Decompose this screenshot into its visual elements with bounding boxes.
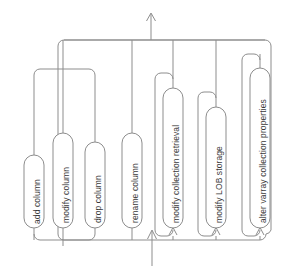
bottom-rail-right-corner bbox=[260, 234, 266, 240]
node-alter-varray-collection-properties[interactable]: alter varray collection properties bbox=[250, 68, 270, 228]
node-modify-lob-storage[interactable]: modify LOB storage bbox=[206, 107, 226, 228]
node-add-column[interactable]: add column bbox=[24, 155, 44, 228]
node-add-column-label: add column bbox=[32, 179, 42, 224]
node-modify-lob-storage-label: modify LOB storage bbox=[214, 146, 224, 223]
main-bottom-rail-group bbox=[58, 234, 266, 240]
syntax-diagram-svg: add column modify column drop column ren… bbox=[0, 0, 293, 272]
node-entry-arrowheads bbox=[169, 228, 264, 236]
node-drop-column-label: drop column bbox=[93, 175, 103, 223]
left-inner-bracket-bottom bbox=[34, 234, 95, 240]
node-modify-column[interactable]: modify column bbox=[53, 133, 73, 228]
node-alter-varray-collection-properties-label: alter varray collection properties bbox=[258, 99, 268, 223]
node-modify-column-label: modify column bbox=[61, 167, 71, 223]
railroad-diagram-canvas: add column modify column drop column ren… bbox=[0, 0, 293, 272]
node-drop-column[interactable]: drop column bbox=[85, 142, 105, 228]
node-modify-collection-retrieval[interactable]: modify collection retrieval bbox=[163, 88, 183, 228]
node-modify-collection-retrieval-label: modify collection retrieval bbox=[171, 125, 181, 223]
left-inner-bracket-top bbox=[34, 69, 95, 75]
exit-arrow bbox=[147, 13, 156, 40]
entry-arrow bbox=[148, 230, 157, 266]
node-rename-column[interactable]: rename column bbox=[122, 133, 142, 228]
node-rename-column-label: rename column bbox=[130, 163, 140, 223]
bypass-bottom-hook-outer bbox=[266, 230, 271, 234]
